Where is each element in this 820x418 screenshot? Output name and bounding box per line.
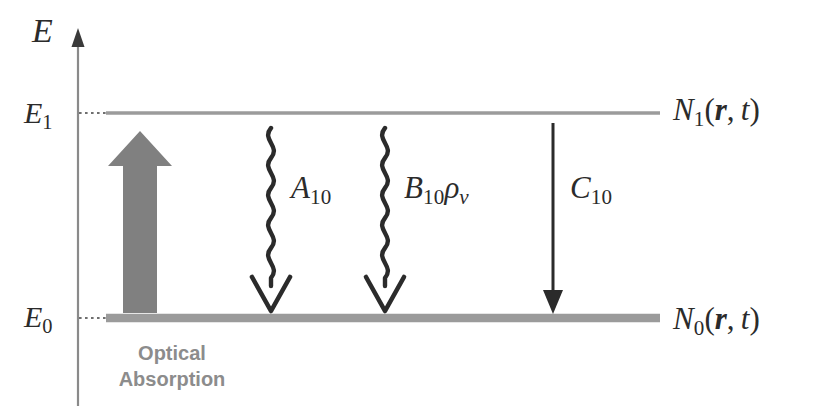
rate-label-spontaneous-emission: A10 bbox=[291, 172, 331, 208]
stimulated-emission-wavy-arrow-icon bbox=[366, 128, 404, 311]
nonradiative-relaxation-arrow-icon bbox=[543, 123, 563, 314]
rate-label-spontaneous-emission-base: A bbox=[291, 170, 310, 205]
rate-label-stimulated-emission-rho-subscript: v bbox=[459, 185, 469, 209]
level-label-lower-subscript: 0 bbox=[42, 315, 52, 337]
population-label-upper-comma: , bbox=[727, 92, 741, 127]
rate-label-nonradiative-relaxation: C10 bbox=[570, 172, 612, 208]
population-label-lower-subscript: 0 bbox=[694, 316, 705, 340]
population-label-lower-base: N bbox=[673, 301, 694, 336]
population-label-lower-arg-position: r bbox=[715, 301, 727, 336]
level-label-upper: E1 bbox=[24, 98, 53, 132]
population-label-lower: N0(r, t) bbox=[673, 303, 760, 339]
population-label-upper-subscript: 1 bbox=[694, 107, 705, 131]
population-label-lower-paren-open: ( bbox=[704, 301, 714, 336]
energy-axis-label: E bbox=[32, 14, 53, 48]
level-label-upper-subscript: 1 bbox=[42, 111, 52, 133]
energy-axis-arrowhead-icon bbox=[72, 28, 85, 47]
level-label-lower: E0 bbox=[24, 302, 53, 336]
population-label-lower-paren-close: ) bbox=[749, 301, 759, 336]
optical-absorption-block-arrow-icon bbox=[108, 131, 172, 313]
rate-label-stimulated-emission-rho: ρ bbox=[444, 170, 459, 205]
population-label-upper: N1(r, t) bbox=[673, 94, 760, 130]
rate-label-stimulated-emission-base: B bbox=[404, 170, 423, 205]
nonradiative-relaxation-arrowhead-icon bbox=[543, 290, 563, 314]
spontaneous-emission-wavy-arrow-icon bbox=[252, 128, 290, 311]
rate-label-nonradiative-relaxation-base: C bbox=[570, 170, 591, 205]
level-label-lower-base: E bbox=[24, 300, 42, 333]
population-label-upper-paren-open: ( bbox=[704, 92, 714, 127]
rate-label-nonradiative-relaxation-subscript: 10 bbox=[591, 185, 612, 209]
level-label-upper-base: E bbox=[24, 96, 42, 129]
population-label-lower-comma: , bbox=[727, 301, 741, 336]
optical-absorption-caption: Optical Absorption bbox=[82, 340, 262, 393]
energy-level-diagram: E E1 E0 A10 B10ρv C10 N1(r, t) N0(r, t) … bbox=[0, 0, 820, 418]
population-label-upper-arg-position: r bbox=[715, 92, 727, 127]
rate-label-stimulated-emission: B10ρv bbox=[404, 172, 469, 208]
rate-label-stimulated-emission-subscript: 10 bbox=[423, 185, 444, 209]
population-label-upper-base: N bbox=[673, 92, 694, 127]
rate-label-spontaneous-emission-subscript: 10 bbox=[310, 185, 331, 209]
population-label-upper-paren-close: ) bbox=[749, 92, 759, 127]
